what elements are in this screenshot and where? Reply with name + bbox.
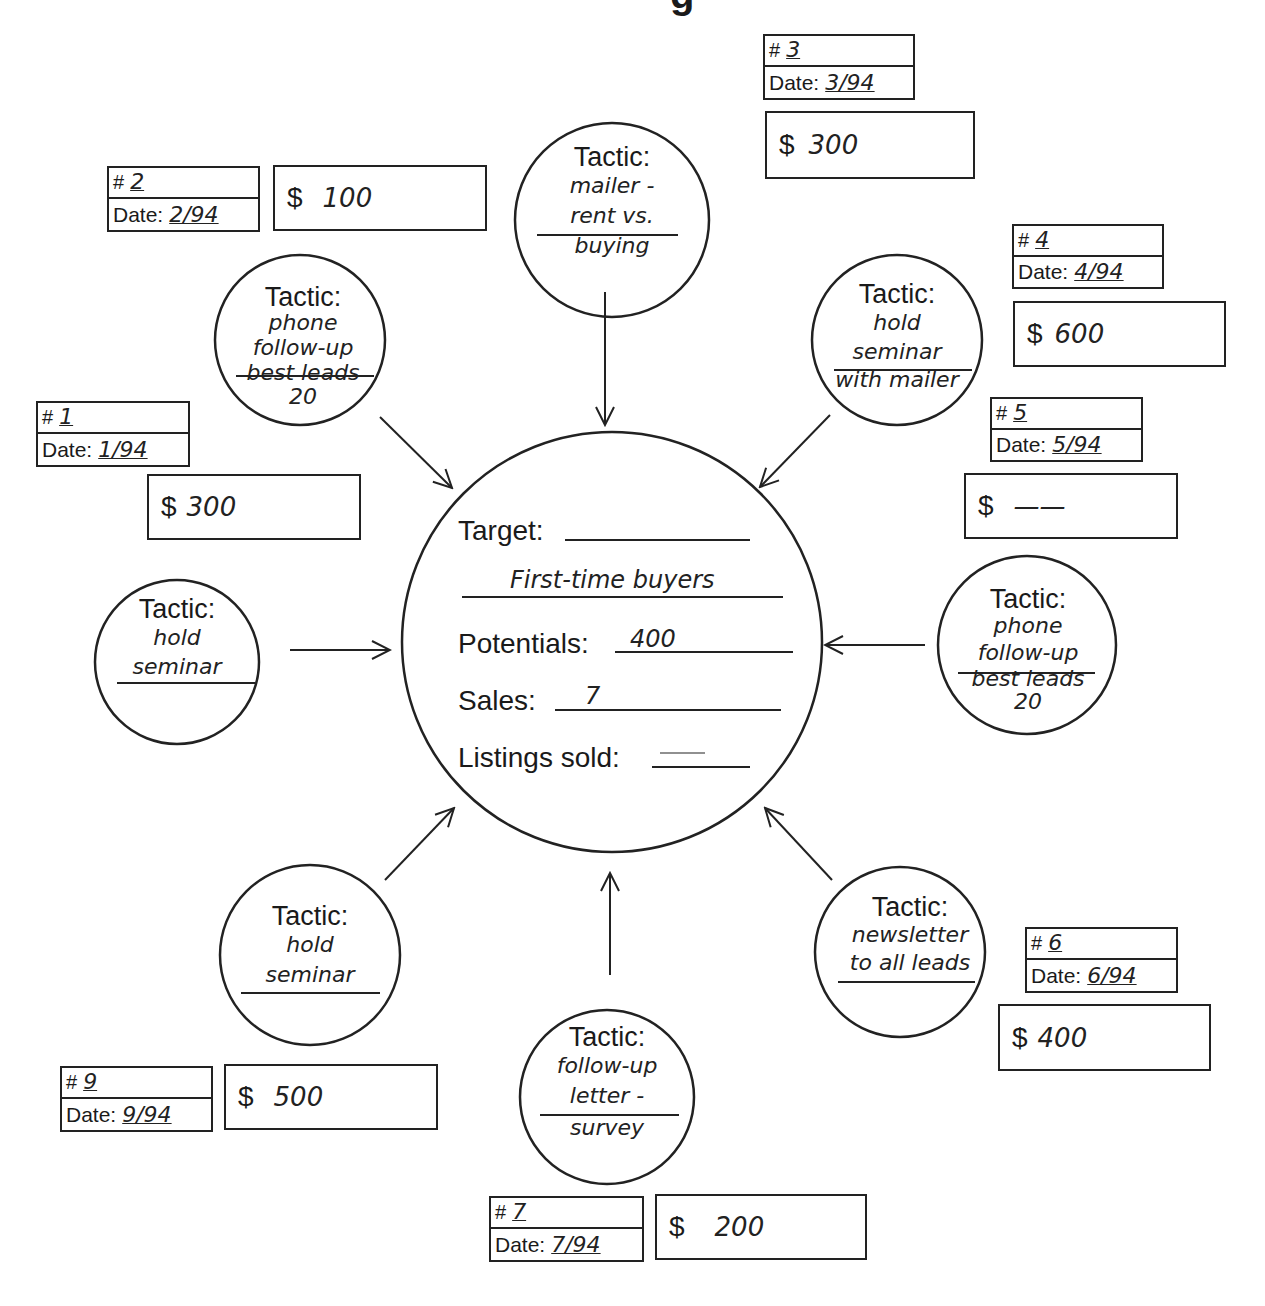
tactic-date: 3/94 <box>825 70 874 95</box>
tactic-number: 2 <box>130 167 144 197</box>
tactic-9-id-box: #9 Date:9/94 <box>60 1066 213 1132</box>
potentials-label: Potentials: <box>458 628 589 660</box>
tactic-label: Tactic: <box>850 893 970 921</box>
tactic-date: 9/94 <box>122 1102 171 1127</box>
tactic-line: mailer - <box>570 171 655 201</box>
tactic-line: follow-up <box>971 639 1084 667</box>
hash-label: # <box>1018 225 1029 255</box>
tactic-label: Tactic: <box>265 902 354 930</box>
tactic-line: buying <box>570 231 655 261</box>
date-label: Date: <box>66 1103 116 1127</box>
target-value: First-time buyers <box>510 566 715 594</box>
tactic-5-cost-box: $—— <box>964 473 1178 539</box>
tactic-bottom: Tactic: follow-up letter - survey <box>557 1023 658 1145</box>
tactic-line: seminar <box>265 960 354 990</box>
tactic-date: 1/94 <box>98 437 147 462</box>
hash-label: # <box>113 167 124 197</box>
tactic-top-right: Tactic: hold seminar with mailer <box>835 280 958 394</box>
tactic-number: 3 <box>786 35 800 65</box>
tactic-number: 6 <box>1048 928 1062 958</box>
dollar-label: $ <box>978 490 994 522</box>
tactic-line: 20 <box>246 385 359 409</box>
hash-label: # <box>769 35 780 65</box>
dollar-label: $ <box>1012 1022 1028 1054</box>
tactic-number: 5 <box>1013 398 1027 428</box>
tactic-date: 6/94 <box>1087 963 1136 988</box>
date-label: Date: <box>769 71 819 95</box>
arrow-top-left <box>380 417 452 488</box>
tactic-3-cost-box: $300 <box>765 111 975 179</box>
sales-label: Sales: <box>458 685 536 717</box>
tactic-cost: 300 <box>809 130 859 160</box>
date-label: Date: <box>495 1233 545 1257</box>
dollar-label: $ <box>161 491 177 523</box>
tactic-line: seminar <box>835 338 958 366</box>
tactic-line: newsletter <box>850 921 970 949</box>
tactic-line: best leads <box>971 667 1084 691</box>
hash-label: # <box>1031 928 1042 958</box>
hash-label: # <box>42 402 53 432</box>
tactic-label: Tactic: <box>246 283 359 311</box>
tactic-line: rent vs. <box>570 201 655 231</box>
tactic-number: 1 <box>59 402 73 432</box>
tactic-2-id-box: #2 Date:2/94 <box>107 166 260 232</box>
tactic-date: 2/94 <box>169 202 218 227</box>
tactic-line: hold <box>835 308 958 338</box>
tactic-label: Tactic: <box>132 595 221 623</box>
tactic-cost: 200 <box>715 1212 765 1242</box>
tactic-7-cost-box: $200 <box>655 1194 867 1260</box>
tactic-line: hold <box>265 930 354 960</box>
tactic-7-id-box: #7 Date:7/94 <box>489 1196 644 1262</box>
arrow-bottom-left <box>385 808 454 880</box>
tactic-line: follow-up <box>246 335 359 361</box>
tactic-line: seminar <box>132 653 221 681</box>
tactic-cost: 300 <box>187 492 237 522</box>
tactic-cost: 600 <box>1055 319 1105 349</box>
tactic-label: Tactic: <box>557 1023 658 1051</box>
tactic-date: 4/94 <box>1074 259 1123 284</box>
tactic-line: phone <box>246 311 359 335</box>
tactic-6-cost-box: $400 <box>998 1004 1211 1071</box>
tactic-5-id-box: #5 Date:5/94 <box>990 397 1143 462</box>
potentials-value: 400 <box>630 625 676 653</box>
hash-label: # <box>66 1067 77 1097</box>
tactic-1-cost-box: $300 <box>147 474 361 540</box>
hash-label: # <box>996 398 1007 428</box>
tactic-line: follow-up <box>557 1051 658 1081</box>
tactic-line: hold <box>132 623 221 653</box>
tactic-line: 20 <box>971 691 1084 713</box>
date-label: Date: <box>113 203 163 227</box>
tactic-bottom-right: Tactic: newsletter to all leads <box>850 893 970 977</box>
tactic-cost: —— <box>1014 491 1066 521</box>
dollar-label: $ <box>238 1081 254 1113</box>
tactic-number: 7 <box>512 1197 526 1227</box>
tactic-line: with mailer <box>835 366 958 394</box>
date-label: Date: <box>996 433 1046 457</box>
tactic-left: Tactic: hold seminar <box>132 595 221 681</box>
tactic-cost: 400 <box>1038 1023 1088 1053</box>
hash-label: # <box>495 1197 506 1227</box>
tactic-line: letter - <box>557 1081 658 1111</box>
tactic-line: survey <box>557 1111 658 1145</box>
tactic-label: Tactic: <box>570 143 655 171</box>
tactic-right: Tactic: phone follow-up best leads 20 <box>971 585 1084 713</box>
tactic-9-cost-box: $500 <box>224 1064 438 1130</box>
tactic-line: to all leads <box>850 949 970 977</box>
date-label: Date: <box>1031 964 1081 988</box>
tactic-label: Tactic: <box>971 585 1084 613</box>
tactic-2-cost-box: $100 <box>273 165 487 231</box>
tactic-number: 9 <box>83 1067 97 1097</box>
tactic-3-id-box: #3 Date:3/94 <box>763 34 915 100</box>
tactic-4-id-box: #4 Date:4/94 <box>1012 224 1164 289</box>
tactic-cost: 100 <box>323 183 373 213</box>
tactic-4-cost-box: $600 <box>1013 301 1226 367</box>
dollar-label: $ <box>669 1211 685 1243</box>
arrow-bottom-right <box>765 808 832 880</box>
tactic-date: 7/94 <box>551 1232 600 1257</box>
date-label: Date: <box>1018 260 1068 284</box>
tactic-bottom-left: Tactic: hold seminar <box>265 902 354 990</box>
tactic-line: phone <box>971 613 1084 639</box>
dollar-label: $ <box>1027 318 1043 350</box>
sales-value: 7 <box>585 682 600 710</box>
arrow-top-right <box>760 415 830 487</box>
